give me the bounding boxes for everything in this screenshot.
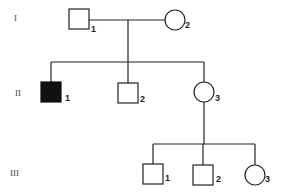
individual-III-2-male [193, 165, 213, 185]
individual-number: 3 [265, 174, 270, 184]
individual-III-3-female [245, 165, 265, 185]
individual-number: 2 [216, 174, 221, 184]
pedigree-chart: I II III 1 2 1 2 3 1 2 3 [0, 0, 282, 193]
individual-II-1-male-affected [41, 82, 61, 102]
individual-number: 2 [140, 94, 145, 104]
individual-III-1-male [143, 164, 163, 184]
connector-lines [51, 20, 255, 165]
individual-number: 1 [91, 24, 96, 34]
individual-I-1-male [69, 9, 89, 29]
individual-number: 2 [185, 20, 190, 30]
pedigree-canvas: I II III 1 2 1 2 3 1 2 3 [0, 0, 282, 193]
individual-II-2-male [118, 83, 138, 103]
generation-label-III: III [10, 168, 19, 178]
individual-II-3-female [194, 82, 214, 102]
individual-number: 1 [65, 93, 70, 103]
generation-label-II: II [15, 88, 21, 98]
individual-number: 3 [215, 93, 220, 103]
generation-label-I: I [14, 13, 17, 23]
individual-number: 1 [165, 173, 170, 183]
individual-I-2-female [165, 10, 185, 30]
